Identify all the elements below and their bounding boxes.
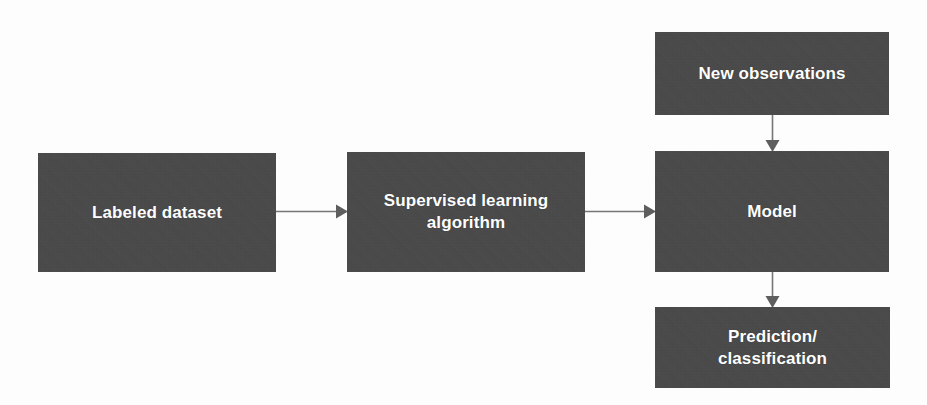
node-prediction-classification[interactable]: Prediction/ classification bbox=[655, 307, 890, 388]
node-model[interactable]: Model bbox=[655, 151, 889, 272]
node-supervised-algorithm[interactable]: Supervised learning algorithm bbox=[347, 152, 585, 272]
node-supervised-algorithm-label: Supervised learning algorithm bbox=[378, 190, 554, 234]
diagram-canvas: Labeled dataset Supervised learning algo… bbox=[0, 0, 927, 405]
arrow-model-to-prediction-classification bbox=[766, 272, 780, 308]
node-new-observations-label: New observations bbox=[692, 63, 851, 85]
node-model-label: Model bbox=[741, 201, 803, 223]
node-labeled-dataset-label: Labeled dataset bbox=[86, 202, 228, 224]
node-prediction-classification-label: Prediction/ classification bbox=[712, 326, 833, 370]
node-labeled-dataset[interactable]: Labeled dataset bbox=[38, 153, 276, 272]
arrow-supervised-algorithm-to-model bbox=[585, 205, 656, 219]
arrow-labeled-dataset-to-supervised-algorithm bbox=[276, 205, 348, 219]
node-new-observations[interactable]: New observations bbox=[655, 32, 889, 115]
arrow-new-observations-to-model bbox=[766, 115, 780, 152]
